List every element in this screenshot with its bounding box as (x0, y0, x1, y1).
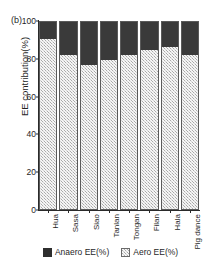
bar-column[interactable] (39, 21, 57, 210)
y-tick-label: 40 (27, 129, 36, 139)
bar-segment-aero[interactable] (161, 47, 179, 210)
bar-segment-aero[interactable] (120, 55, 138, 210)
bar-segment-anaero[interactable] (161, 21, 179, 47)
bar-column[interactable] (100, 21, 118, 210)
x-tick-mark (129, 210, 130, 213)
y-tick-label: 60 (27, 92, 36, 102)
bar-column[interactable] (80, 21, 98, 210)
bar-segment-anaero[interactable] (59, 21, 77, 55)
x-tick-label: Hua (51, 214, 60, 229)
x-tick-mark (190, 210, 191, 213)
bar-segment-aero[interactable] (181, 55, 199, 210)
bar-segment-aero[interactable] (59, 55, 77, 210)
x-tick-label: Siao (92, 214, 101, 230)
figure-panel-b: (b) EE contribution(%) 020406080100 HuaS… (0, 0, 221, 271)
x-tick-label-text: Tongan (132, 214, 141, 240)
x-tick-label-text: Hala (173, 214, 182, 230)
legend-item[interactable]: Anaero EE(%) (43, 247, 109, 257)
x-tick-label-text: Hua (51, 214, 60, 229)
bar-segment-aero[interactable] (100, 60, 118, 210)
x-tick-label: Sasa (71, 214, 80, 232)
bar-column[interactable] (59, 21, 77, 210)
bar-column[interactable] (140, 21, 158, 210)
x-tick-label-text: Sasa (71, 214, 80, 232)
bar-column[interactable] (161, 21, 179, 210)
y-tick-label: 100 (22, 16, 36, 26)
bar-segment-anaero[interactable] (120, 21, 138, 55)
bar-segment-anaero[interactable] (39, 21, 57, 39)
x-tick-label: Tongan (132, 214, 141, 240)
legend-item[interactable]: Aero EE(%) (121, 247, 178, 257)
x-tick-label-text: Tanlan (112, 214, 121, 238)
bar-segment-anaero[interactable] (140, 21, 158, 50)
y-tick-label: 80 (27, 54, 36, 64)
plot-area: 020406080100 (39, 21, 199, 210)
bar-column[interactable] (120, 21, 138, 210)
x-tick-mark (109, 210, 110, 213)
x-axis-line (38, 210, 200, 211)
chart-legend: Anaero EE(%)Aero EE(%) (0, 247, 221, 257)
legend-swatch-icon (121, 248, 130, 257)
bar-column[interactable] (181, 21, 199, 210)
bar-segment-aero[interactable] (140, 50, 158, 210)
x-tick-label-text: Pig dance (193, 214, 202, 250)
bar-segment-aero[interactable] (39, 39, 57, 210)
x-tick-mark (68, 210, 69, 213)
x-tick-label: Tanlan (112, 214, 121, 238)
x-tick-label-text: Siao (92, 214, 101, 230)
legend-label: Anaero EE(%) (55, 247, 109, 257)
x-tick-mark (89, 210, 90, 213)
bar-segment-anaero[interactable] (80, 21, 98, 65)
x-tick-label-text: Filan (152, 214, 161, 231)
x-tick-label: Hala (173, 214, 182, 230)
y-axis-title: EE contribution(%) (19, 7, 30, 147)
x-tick-label: Filan (152, 214, 161, 231)
bar-segment-anaero[interactable] (181, 21, 199, 55)
bar-segment-aero[interactable] (80, 65, 98, 210)
bar-segment-anaero[interactable] (100, 21, 118, 60)
bar-group (39, 21, 199, 210)
legend-label: Aero EE(%) (133, 247, 178, 257)
x-tick-mark (48, 210, 49, 213)
x-tick-label: Pig dance (193, 214, 202, 250)
y-tick-label: 20 (27, 167, 36, 177)
y-tick-label: 0 (31, 205, 36, 215)
x-tick-mark (170, 210, 171, 213)
x-tick-mark (149, 210, 150, 213)
legend-swatch-icon (43, 248, 52, 257)
